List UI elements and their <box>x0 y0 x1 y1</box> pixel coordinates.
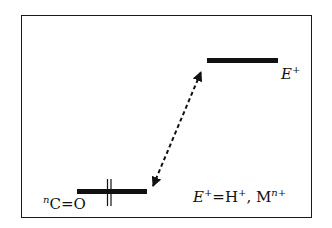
upper-level-label: E+ <box>281 67 300 82</box>
interaction-arrow <box>153 72 201 186</box>
upper-energy-level <box>207 58 278 63</box>
lower-energy-level <box>77 189 147 194</box>
lower-level-label: nC=O <box>43 197 86 212</box>
legend-text: E+=H+, Mn+ <box>193 190 286 205</box>
